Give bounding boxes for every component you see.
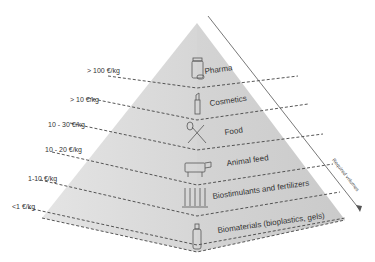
price-label-pharma: > 100 €/kg — [87, 67, 120, 75]
price-label-cosmetics: > 10 €/kg — [70, 96, 99, 104]
pyramid-left-face — [42, 23, 197, 252]
price-label-biomaterials: <1 €/kg — [12, 203, 35, 211]
required-volumes-label: Required volumes — [331, 157, 361, 193]
price-label-food: 10 - 30 €/kg — [48, 121, 85, 129]
price-label-animal-feed: 10 - 20 €/kg — [45, 146, 82, 154]
value-pyramid-diagram: > 100 €/kg > 10 €/kg 10 - 30 €/kg 10 - 2… — [0, 0, 375, 262]
price-label-biostimulants: 1-10 €/kg — [28, 175, 57, 183]
